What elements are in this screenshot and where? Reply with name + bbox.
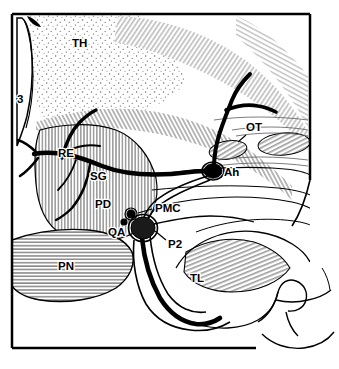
label-Ah: Ah bbox=[224, 166, 239, 178]
label-TH: TH bbox=[72, 37, 87, 49]
marker-pmc-cluster-large bbox=[131, 217, 155, 239]
label-PD: PD bbox=[95, 198, 111, 210]
label-OT: OT bbox=[246, 121, 262, 133]
label-P2: P2 bbox=[168, 238, 182, 250]
marker-pmc-cluster-mid bbox=[127, 210, 136, 219]
figure-canvas: TH 3 RE SG PD QA PMC P2 TL Ah OT PN bbox=[0, 0, 339, 369]
label-PMC: PMC bbox=[155, 202, 181, 214]
anatomical-figure: TH 3 RE SG PD QA PMC P2 TL Ah OT PN bbox=[0, 0, 339, 369]
label-3: 3 bbox=[17, 93, 23, 105]
marker-pmc-cluster-small bbox=[120, 218, 127, 225]
label-RE: RE bbox=[58, 147, 74, 159]
label-QA: QA bbox=[108, 226, 125, 238]
label-PN: PN bbox=[58, 260, 74, 272]
label-SG: SG bbox=[90, 170, 107, 182]
label-TL: TL bbox=[190, 272, 204, 284]
marker-aneurysm-dome bbox=[204, 164, 222, 178]
